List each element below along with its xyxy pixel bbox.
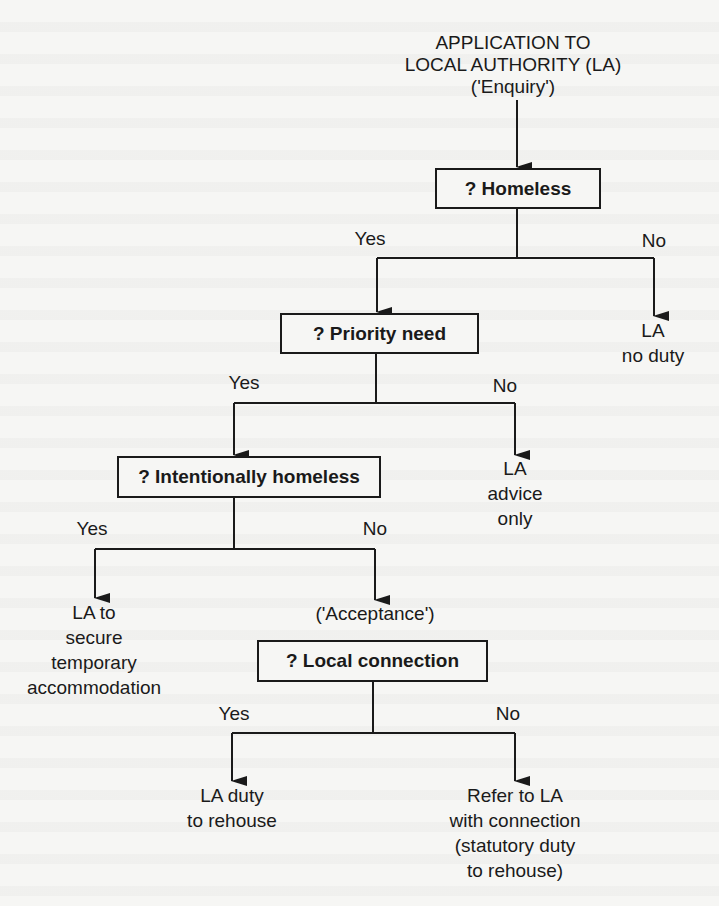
start-node: APPLICATION TO LOCAL AUTHORITY (LA) ('En…	[405, 32, 621, 98]
acceptance-label: ('Acceptance')	[315, 601, 434, 626]
yes-label: Yes	[229, 372, 260, 394]
decision-local-connection: ? Local connection	[257, 640, 488, 682]
outcome-refer-to-la: Refer to LA with connection (statutory d…	[450, 783, 581, 883]
no-label: No	[496, 703, 520, 725]
yes-label: Yes	[77, 518, 108, 540]
outcome-la-duty-to-rehouse: LA duty to rehouse	[187, 783, 277, 833]
no-label: No	[493, 375, 517, 397]
no-label: No	[363, 518, 387, 540]
decision-priority-need: ? Priority need	[280, 313, 479, 354]
yes-label: Yes	[355, 228, 386, 250]
outcome-la-advice-only: LA advice only	[488, 456, 543, 531]
outcome-la-no-duty: LA no duty	[622, 318, 684, 368]
decision-intentionally-homeless: ? Intentionally homeless	[117, 456, 381, 498]
no-label: No	[642, 230, 666, 252]
start-line-1: APPLICATION TO	[405, 32, 621, 54]
connector-lines	[0, 0, 719, 906]
start-line-3: ('Enquiry')	[405, 76, 621, 98]
outcome-temporary-accommodation: LA to secure temporary accommodation	[27, 600, 161, 700]
decision-homeless: ? Homeless	[435, 168, 601, 209]
start-line-2: LOCAL AUTHORITY (LA)	[405, 54, 621, 76]
yes-label: Yes	[219, 703, 250, 725]
